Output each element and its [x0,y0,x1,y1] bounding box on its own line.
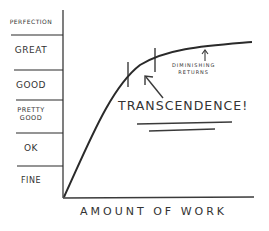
underline [149,129,215,131]
x-axis [63,197,254,198]
diminishing-line2: RETURNS [172,69,215,76]
y-label-fine: FINE [0,176,62,185]
pretty-good-line2: GOOD [0,114,62,122]
y-label-perfection: PERFECTION [0,18,62,25]
y-label-pretty-good: PRETTY GOOD [0,106,62,122]
pretty-good-line1: PRETTY [0,106,62,114]
up-arrow-icon [202,50,208,61]
underline [137,122,232,124]
arrow-icon [145,76,163,98]
diminishing-returns-annotation: DIMINISHING RETURNS [172,62,215,76]
transcendence-annotation: TRANSCENDENCE! [118,98,248,113]
diminishing-line1: DIMINISHING [172,62,215,69]
x-axis-label: AMOUNT OF WORK [80,205,227,218]
y-label-ok: OK [0,143,62,153]
y-label-great: GREAT [0,45,62,55]
y-label-good: GOOD [0,80,62,90]
quality-curve [64,42,252,197]
